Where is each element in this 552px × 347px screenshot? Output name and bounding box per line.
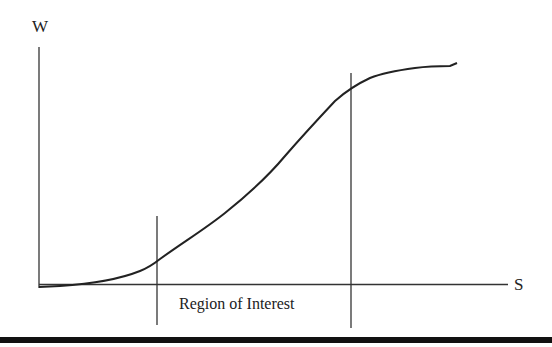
y-axis-label: W — [32, 17, 48, 37]
sigmoid-curve — [39, 63, 457, 287]
bottom-divider — [0, 337, 552, 343]
region-of-interest-label: Region of Interest — [179, 295, 295, 313]
x-axis-label: S — [514, 275, 523, 295]
